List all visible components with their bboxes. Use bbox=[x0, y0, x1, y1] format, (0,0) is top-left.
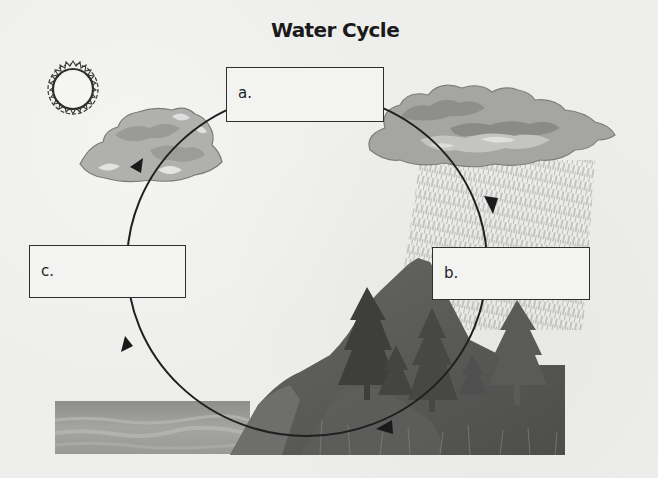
sun-icon bbox=[48, 61, 98, 114]
label-letter-b: b. bbox=[444, 264, 458, 282]
rain-cloud-icon bbox=[369, 85, 615, 167]
diagram-title: Water Cycle bbox=[6, 18, 658, 42]
label-letter-a: a. bbox=[238, 84, 252, 102]
ocean-icon bbox=[55, 401, 250, 454]
arrow-up-icon bbox=[121, 336, 133, 352]
label-letter-c: c. bbox=[41, 262, 54, 280]
label-box-b[interactable]: b. bbox=[432, 247, 590, 300]
small-cloud-icon bbox=[80, 108, 222, 181]
label-box-c[interactable]: c. bbox=[29, 245, 186, 298]
label-box-a[interactable]: a. bbox=[226, 67, 384, 122]
